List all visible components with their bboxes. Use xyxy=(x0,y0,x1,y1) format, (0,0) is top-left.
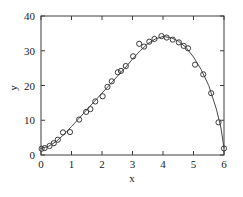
x-tick-label: 1 xyxy=(69,158,75,170)
data-point-markers xyxy=(39,34,227,152)
data-point xyxy=(192,62,197,67)
y-tick-label: 0 xyxy=(30,149,36,161)
x-tick-label: 6 xyxy=(221,158,227,170)
y-axis-label: y xyxy=(7,85,19,91)
x-tick-label: 0 xyxy=(38,158,44,170)
x-axis-label: x xyxy=(129,172,135,184)
data-point xyxy=(100,94,105,99)
data-point xyxy=(137,41,142,46)
data-point xyxy=(67,129,72,134)
data-point xyxy=(123,63,128,68)
y-axis-tick-labels: 010203040 xyxy=(24,10,36,161)
scatter-plot: 0123456 010203040 x y xyxy=(0,0,243,197)
x-tick-label: 4 xyxy=(160,158,166,170)
x-axis-tick-labels: 0123456 xyxy=(38,158,227,170)
data-point xyxy=(216,120,221,125)
x-tick-label: 3 xyxy=(130,158,136,170)
data-point xyxy=(88,107,93,112)
y-tick-label: 10 xyxy=(24,114,36,126)
y-tick-label: 30 xyxy=(24,45,36,57)
x-tick-label: 5 xyxy=(191,158,197,170)
data-point xyxy=(93,99,98,104)
y-tick-label: 20 xyxy=(24,80,36,92)
chart-figure: 0123456 010203040 x y xyxy=(0,0,243,197)
data-point xyxy=(60,130,65,135)
x-tick-label: 2 xyxy=(99,158,105,170)
y-tick-label: 40 xyxy=(24,10,36,22)
